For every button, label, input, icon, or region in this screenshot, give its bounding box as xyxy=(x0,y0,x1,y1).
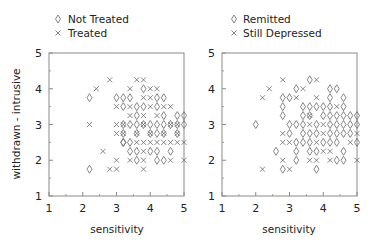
marker-diamond xyxy=(155,121,160,129)
marker-diamond xyxy=(301,121,306,129)
marker-diamond xyxy=(348,121,353,129)
marker-diamond xyxy=(280,94,285,102)
marker-diamond xyxy=(341,147,346,155)
marker-diamond xyxy=(294,147,299,155)
marker-diamond xyxy=(334,85,339,93)
marker-x xyxy=(175,140,180,145)
marker-x xyxy=(148,140,153,145)
marker-diamond xyxy=(280,165,285,173)
x-axis-label-right: sensitivity xyxy=(262,223,315,235)
marker-x xyxy=(280,131,285,136)
marker-diamond xyxy=(155,94,160,102)
legend-label-still-depressed: Still Depressed xyxy=(243,27,322,39)
marker-x xyxy=(314,158,319,163)
marker-diamond xyxy=(161,112,166,120)
marker-x xyxy=(128,113,133,118)
marker-x xyxy=(168,140,173,145)
marker-diamond xyxy=(128,147,133,155)
marker-x xyxy=(328,158,333,163)
legend-diamond-icon xyxy=(56,15,61,23)
marker-x xyxy=(301,86,306,91)
marker-diamond xyxy=(341,94,346,102)
marker-x xyxy=(307,158,312,163)
marker-diamond xyxy=(287,121,292,129)
marker-diamond xyxy=(328,85,333,93)
marker-diamond xyxy=(314,129,319,137)
marker-x xyxy=(161,104,166,109)
marker-diamond xyxy=(314,103,319,111)
marker-x xyxy=(134,77,139,82)
legend-diamond-icon xyxy=(232,15,237,23)
x-tick-label: 1 xyxy=(219,202,226,215)
marker-diamond xyxy=(287,94,292,102)
marker-diamond xyxy=(341,156,346,164)
marker-diamond xyxy=(294,156,299,164)
marker-diamond xyxy=(294,121,299,129)
plot-frame xyxy=(222,53,357,196)
marker-diamond xyxy=(307,138,312,146)
x-tick-label: 2 xyxy=(252,202,259,215)
marker-diamond xyxy=(274,147,279,155)
marker-x xyxy=(148,104,153,109)
marker-x xyxy=(294,95,299,100)
marker-diamond xyxy=(134,103,139,111)
marker-x xyxy=(348,140,353,145)
marker-diamond xyxy=(141,85,146,93)
marker-x xyxy=(148,95,153,100)
marker-diamond xyxy=(307,76,312,84)
marker-diamond xyxy=(161,156,166,164)
y-tick-label: 5 xyxy=(208,47,215,60)
marker-x xyxy=(168,122,173,127)
y-tick-label: 1 xyxy=(35,190,42,203)
marker-x xyxy=(128,86,133,91)
marker-x xyxy=(267,86,272,91)
marker-x xyxy=(128,158,133,163)
marker-diamond xyxy=(121,94,126,102)
marker-diamond xyxy=(134,156,139,164)
marker-diamond xyxy=(175,112,180,120)
marker-diamond xyxy=(168,147,173,155)
marker-x xyxy=(321,122,326,127)
marker-diamond xyxy=(328,103,333,111)
x-tick-label: 3 xyxy=(113,202,120,215)
marker-x xyxy=(280,158,285,163)
plot-panel-left: 1234512345 xyxy=(35,47,188,215)
marker-diamond xyxy=(253,121,258,129)
marker-x xyxy=(134,131,139,136)
marker-x xyxy=(287,140,292,145)
marker-x xyxy=(287,167,292,172)
legend-left: Not Treated Treated xyxy=(56,13,129,39)
marker-diamond xyxy=(280,112,285,120)
x-tick-label: 4 xyxy=(147,202,154,215)
y-tick-label: 3 xyxy=(208,119,215,132)
marker-diamond xyxy=(301,103,306,111)
marker-diamond xyxy=(328,138,333,146)
marker-diamond xyxy=(134,112,139,120)
legend-label-treated: Treated xyxy=(67,27,107,39)
marker-diamond xyxy=(155,156,160,164)
x-tick-label: 4 xyxy=(320,202,327,215)
marker-diamond xyxy=(328,121,333,129)
marker-diamond xyxy=(321,103,326,111)
marker-diamond xyxy=(294,85,299,93)
x-tick-label: 3 xyxy=(286,202,293,215)
marker-diamond xyxy=(307,103,312,111)
marker-x xyxy=(141,140,146,145)
marker-diamond xyxy=(280,103,285,111)
y-axis-label: withdrawn - intrusive xyxy=(10,68,22,179)
marker-diamond xyxy=(134,147,139,155)
marker-diamond xyxy=(294,138,299,146)
legend-right: Remitted Still Depressed xyxy=(232,13,322,39)
marker-diamond xyxy=(134,121,139,129)
marker-x xyxy=(114,131,119,136)
marker-diamond xyxy=(334,129,339,137)
marker-diamond xyxy=(121,138,126,146)
x-tick-label: 2 xyxy=(79,202,86,215)
marker-x xyxy=(314,140,319,145)
marker-x xyxy=(307,113,312,118)
marker-diamond xyxy=(87,94,92,102)
y-tick-label: 1 xyxy=(208,190,215,203)
marker-x xyxy=(155,86,160,91)
marker-diamond xyxy=(161,94,166,102)
marker-diamond xyxy=(341,112,346,120)
